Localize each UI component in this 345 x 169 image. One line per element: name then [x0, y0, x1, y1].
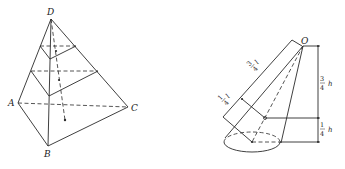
middle-section-left — [31, 71, 49, 96]
height-label-lower: 1 4 h — [320, 121, 333, 138]
vertex-label-D: D — [46, 7, 54, 17]
upper-section-right — [50, 46, 76, 59]
slant-label-upper: 3 4 l — [245, 56, 263, 74]
slant-label-lower: 1 4 l — [216, 90, 234, 108]
edge-AC-hidden — [18, 103, 128, 107]
height-dim-dot-top — [317, 45, 319, 47]
fraction-variable: h — [328, 80, 333, 88]
vertex-label-A: A — [7, 98, 15, 108]
fraction-variable: l — [253, 59, 260, 66]
centroid-point-middle — [58, 79, 60, 81]
base-ellipse-front — [224, 142, 280, 152]
cone-left-generator — [225, 46, 303, 138]
height-dim-dot-mid — [317, 117, 319, 119]
edge-DA — [18, 19, 51, 103]
cone-right-generator — [281, 46, 303, 143]
fraction-variable: h — [328, 126, 333, 134]
tetrahedron: D A C B — [7, 7, 138, 159]
edge-BC — [48, 107, 128, 146]
fraction-numerator: 1 — [320, 121, 324, 129]
height-dim-dot-bottom — [317, 141, 319, 143]
base-ellipse-back — [224, 132, 280, 142]
fraction-denominator: 4 — [320, 130, 324, 138]
fraction-numerator: 3 — [320, 75, 324, 83]
vertex-label-B: B — [43, 149, 51, 159]
fraction-variable: l — [224, 93, 231, 100]
slant-dim-mark — [241, 98, 243, 100]
geometry-figure: D A C B O — [0, 0, 345, 169]
vertex-label-C: C — [131, 103, 138, 113]
centroid-point-upper — [55, 50, 57, 52]
apex-label-O: O — [301, 36, 309, 46]
slant-dimension-line — [223, 40, 292, 117]
height-label-upper: 3 4 h — [320, 75, 333, 92]
centroid-point-base — [64, 119, 66, 121]
edge-DC — [51, 19, 128, 107]
slant-dim-tick-bottom — [223, 117, 252, 142]
upper-section-left — [40, 46, 50, 59]
fraction-denominator: 4 — [320, 84, 324, 92]
slant-dim-tick-mid — [242, 99, 265, 118]
edge-AB — [18, 103, 48, 146]
cone: O 3 4 h 1 4 h 3 4 l 1 4 l — [216, 36, 333, 152]
middle-section-right — [49, 71, 98, 96]
edge-DB — [48, 19, 51, 146]
cone-axis — [252, 46, 303, 142]
